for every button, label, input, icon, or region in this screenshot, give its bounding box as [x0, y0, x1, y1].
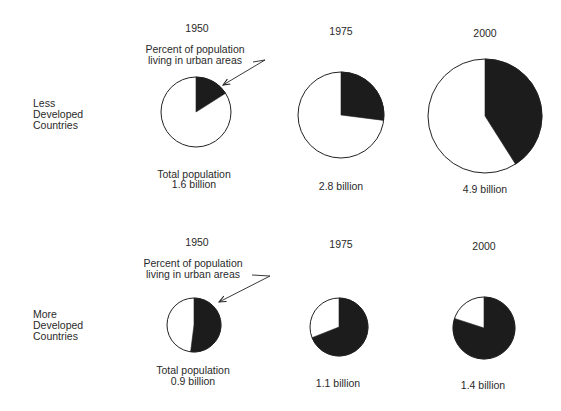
urban-slice: [191, 298, 221, 352]
pie-ldc-2000: [428, 59, 542, 173]
pie-ldc-1975: [298, 72, 384, 158]
annotation-arrow-bottom: [219, 275, 270, 302]
pie-ldc-1950: [161, 77, 231, 147]
pie-mdc-2000: [453, 297, 515, 359]
pie-chart-canvas: [0, 0, 561, 411]
pie-mdc-1975: [310, 298, 368, 356]
urban-slice: [341, 72, 384, 120]
pie-mdc-1950: [167, 298, 221, 352]
annotation-arrow-top: [223, 60, 265, 85]
